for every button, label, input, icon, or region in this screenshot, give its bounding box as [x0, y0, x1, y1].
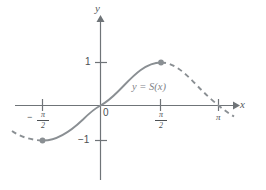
y-axis-arrowhead	[97, 15, 105, 22]
x-axis-arrowhead	[233, 102, 240, 110]
x-tick-minus-sign: −	[27, 112, 32, 122]
origin-label: 0	[103, 108, 109, 118]
fraction-denominator: 2	[155, 122, 167, 130]
fraction-numerator: π	[155, 111, 167, 119]
x-tick-label-minus-pi-over-2: π 2	[37, 111, 49, 130]
y-tick-label-one: 1	[85, 57, 91, 67]
sine-function-figure: y x 0 1 −1 − π 2 π 2 π y = S(x)	[0, 0, 266, 190]
curve-equation-label: y = S(x)	[132, 82, 166, 93]
curve-dashed-right	[161, 63, 234, 117]
x-tick-label-pi: π	[216, 112, 221, 122]
x-axis-label: x	[240, 99, 245, 110]
y-axis-label: y	[95, 3, 100, 14]
fraction-denominator: 2	[37, 122, 49, 130]
x-tick-label-pi-over-2: π 2	[155, 111, 167, 130]
left-endpoint-dot	[40, 138, 46, 144]
fraction-numerator: π	[37, 111, 49, 119]
y-tick-label-minus-one: −1	[78, 135, 89, 145]
curve-solid-main	[43, 63, 162, 141]
plot-canvas	[0, 0, 266, 190]
curve-dashed-left	[12, 131, 43, 141]
right-endpoint-dot	[158, 60, 164, 66]
